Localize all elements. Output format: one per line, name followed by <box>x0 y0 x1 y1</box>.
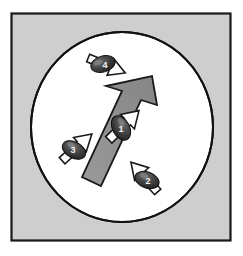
agent-2-label: 2 <box>145 176 150 186</box>
agent-3-label: 3 <box>70 145 75 155</box>
figure-canvas: 4 1 <box>0 0 243 256</box>
agent-4-label: 4 <box>102 60 107 70</box>
agent-1-label: 1 <box>118 124 123 134</box>
figure-panel: 4 1 <box>0 0 243 256</box>
